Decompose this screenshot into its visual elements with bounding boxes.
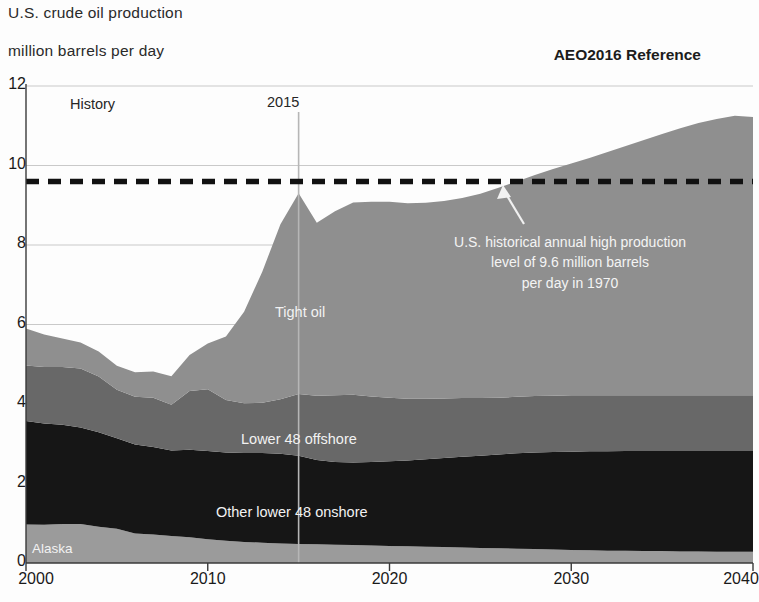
callout-line-3: per day in 1970 xyxy=(420,273,720,293)
x-tick-2010: 2010 xyxy=(190,570,226,588)
y-tick-0: 0 xyxy=(0,552,26,570)
y-tick-12: 12 xyxy=(0,75,26,93)
history-label: History xyxy=(70,96,115,112)
y-tick-8: 8 xyxy=(0,234,26,252)
x-tick-2030: 2030 xyxy=(553,570,589,588)
x-tick-2040: 2040 xyxy=(723,570,759,588)
callout-line-2: level of 9.6 million barrels xyxy=(420,252,720,272)
series-label-other-lower48-onshore: Other lower 48 onshore xyxy=(216,504,368,520)
chart-page: U.S. crude oil production million barrel… xyxy=(0,0,759,602)
y-tick-6: 6 xyxy=(0,314,26,332)
x-tick-2020: 2020 xyxy=(372,570,408,588)
series-label-alaska: Alaska xyxy=(32,541,73,556)
reference-line-callout: U.S. historical annual high production l… xyxy=(420,232,720,293)
projection-year-label: 2015 xyxy=(267,94,299,110)
y-tick-10: 10 xyxy=(0,155,26,173)
callout-line-1: U.S. historical annual high production xyxy=(420,232,720,252)
stacked-area-chart xyxy=(0,0,759,602)
series-label-lower48-offshore: Lower 48 offshore xyxy=(241,431,357,447)
y-tick-2: 2 xyxy=(0,473,26,491)
series-label-tight-oil: Tight oil xyxy=(275,304,325,320)
y-tick-4: 4 xyxy=(0,393,26,411)
x-tick-2000: 2000 xyxy=(18,570,54,588)
